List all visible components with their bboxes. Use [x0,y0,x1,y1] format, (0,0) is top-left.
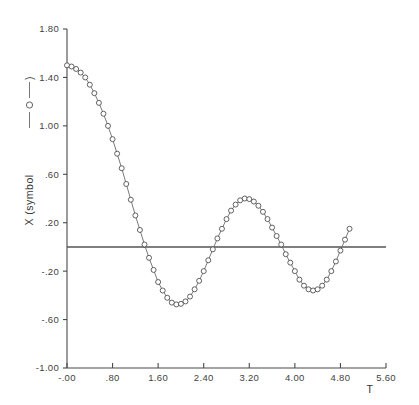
data-point-marker [201,269,206,274]
y-tick-label: 1.80 [39,23,59,34]
data-point-marker [137,227,142,232]
data-point-marker [115,151,120,156]
data-point-marker [315,287,320,292]
data-point-marker [265,217,270,222]
data-point-marker [124,181,129,186]
data-point-marker [342,237,347,242]
data-point-marker [119,166,124,171]
y-axis-ticks: 1.801.401.00.60.20-.20-.60-1.00 [36,23,67,373]
data-point-marker [233,202,238,207]
data-point-marker [251,199,256,204]
y-axis-title: X (symbol [23,174,35,225]
data-point-marker [260,209,265,214]
data-point-marker [206,258,211,263]
data-point-marker [192,287,197,292]
data-point-marker [87,82,92,87]
data-point-marker [78,70,83,75]
data-point-marker [288,260,293,265]
data-point-marker [329,269,334,274]
data-point-marker [224,217,229,222]
x-axis-title: T [367,383,374,395]
data-point-marker [165,295,170,300]
data-point-marker [156,280,161,285]
data-point-marker [215,236,220,241]
y-tick-label: .60 [45,169,59,180]
damped-oscillation-chart: 1.801.401.00.60.20-.20-.60-1.00 -.00.801… [0,0,419,405]
data-point-marker [142,242,147,247]
data-markers-group [65,63,353,307]
data-point-marker [283,252,288,257]
x-tick-label: 2.40 [194,372,214,383]
data-point-marker [183,299,188,304]
data-point-marker [229,208,234,213]
data-point-marker [74,66,79,71]
data-point-marker [274,234,279,239]
data-point-marker [301,283,306,288]
legend-circle-icon [26,102,32,108]
data-point-marker [197,278,202,283]
y-axis-title-suffix: ) [23,76,35,80]
y-axis-legend-symbol: ) [23,76,35,128]
data-point-marker [297,277,302,282]
data-point-marker [347,226,352,231]
data-point-marker [151,267,156,272]
x-tick-label: .80 [106,372,120,383]
x-tick-label: 4.80 [331,372,351,383]
data-curve [67,65,350,304]
x-tick-label: -.00 [58,372,76,383]
data-point-marker [279,242,284,247]
data-point-marker [92,91,97,96]
data-point-marker [210,247,215,252]
y-tick-label: -1.00 [36,362,59,373]
y-tick-label: -.20 [41,266,59,277]
y-tick-label: .20 [45,217,59,228]
y-axis-title-group: X (symbol [23,174,35,225]
x-axis-ticks: -.00.801.602.403.204.004.805.60 [58,363,396,383]
data-point-marker [270,225,275,230]
data-point-marker [110,137,115,142]
data-point-marker [83,75,88,80]
data-point-marker [333,259,338,264]
y-tick-label: -.60 [41,314,59,325]
data-point-marker [106,123,111,128]
data-point-marker [324,277,329,282]
data-point-marker [256,203,261,208]
data-point-marker [188,294,193,299]
data-point-marker [147,255,152,260]
y-tick-label: 1.40 [39,72,59,83]
axes-group [67,29,386,368]
data-point-marker [338,248,343,253]
data-point-marker [133,213,138,218]
data-point-marker [160,288,165,293]
plot-container: 1.801.401.00.60.20-.20-.60-1.00 -.00.801… [0,0,419,405]
x-tick-label: 1.60 [148,372,168,383]
data-point-marker [96,100,101,105]
data-point-marker [101,111,106,116]
data-point-marker [219,226,224,231]
x-tick-label: 4.00 [285,372,305,383]
x-tick-label: 5.60 [376,372,396,383]
y-tick-label: 1.00 [39,120,59,131]
data-point-marker [128,197,133,202]
x-tick-label: 3.20 [239,372,259,383]
data-point-marker [320,283,325,288]
data-point-marker [292,269,297,274]
